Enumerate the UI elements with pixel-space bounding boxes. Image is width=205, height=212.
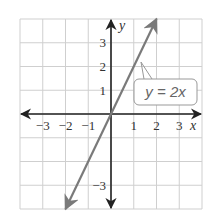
x-axis-label: x	[189, 118, 197, 133]
x-tick-label: 3	[176, 118, 183, 133]
y-tick-label: 3	[100, 35, 107, 50]
y-tick-label: 1	[100, 83, 107, 98]
x-tick-label: −3	[36, 118, 50, 133]
x-tick-label: −1	[81, 118, 95, 133]
equation-callout: y = 2x	[134, 62, 197, 105]
x-tick-label: 1	[131, 118, 138, 133]
y-tick-label: −3	[92, 178, 106, 193]
y-axis-label: y	[117, 18, 126, 33]
coordinate-plane: −3−2−1123321−3 y = 2x x y	[0, 0, 205, 212]
equation-label: y = 2x	[144, 83, 186, 100]
x-tick-label: −2	[59, 118, 73, 133]
y-tick-label: 2	[100, 59, 107, 74]
x-tick-label: 2	[153, 118, 160, 133]
